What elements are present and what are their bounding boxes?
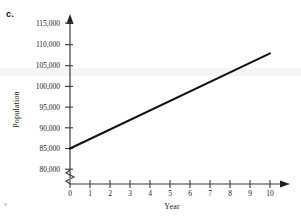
x-tick-label: 2: [103, 189, 117, 198]
figure-panel: c.: [0, 0, 301, 222]
y-tick-label: 85,000: [18, 144, 60, 153]
y-tick-label: 110,000: [18, 40, 60, 49]
x-axis: [70, 180, 290, 187]
x-tick-label: 7: [203, 189, 217, 198]
y-tick-label: 105,000: [18, 61, 60, 70]
y-tick-label: 80,000: [18, 165, 60, 174]
x-tick-label: 3: [123, 189, 137, 198]
y-axis: [66, 14, 73, 178]
x-tick-label: 9: [243, 189, 257, 198]
chart-plot-area: 115,000 110,000 105,000 100,000 95,000 9…: [0, 0, 301, 222]
x-tick-label: 1: [83, 189, 97, 198]
x-tick-label: 5: [163, 189, 177, 198]
population-trend-line: [70, 53, 270, 148]
y-axis-title: Population: [12, 80, 21, 140]
x-tick-label: 0: [63, 189, 77, 198]
x-tick-label: 8: [223, 189, 237, 198]
x-axis-title: Year: [142, 202, 202, 211]
y-tick-label: 95,000: [18, 103, 60, 112]
x-tick-label: 6: [183, 189, 197, 198]
y-tick-label: 90,000: [18, 124, 60, 133]
y-tick-label: 100,000: [18, 82, 60, 91]
y-tick-label: 115,000: [18, 19, 60, 28]
x-tick-label: 10: [263, 189, 277, 198]
x-tick-label: 4: [143, 189, 157, 198]
